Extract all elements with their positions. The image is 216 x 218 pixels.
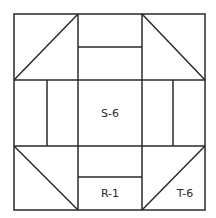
top-right-triangle-diagonal	[142, 14, 205, 80]
bottom-right-triangle-diagonal	[142, 146, 205, 210]
bottom-right-triangle-label: T-6	[176, 187, 194, 200]
bottom-left-triangle-diagonal	[14, 146, 78, 210]
bottom-rect-label: R-1	[101, 187, 119, 200]
quilt-block-diagram: S-6 R-1 T-6	[0, 0, 216, 218]
center-square-label: S-6	[101, 107, 119, 120]
top-left-triangle-diagonal	[14, 14, 78, 80]
